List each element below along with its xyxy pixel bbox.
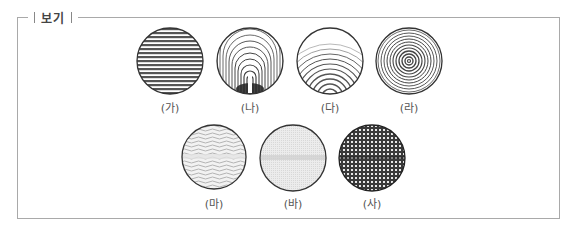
title-divider-right (71, 12, 72, 23)
figure-ga-horizontal-stripes (136, 27, 204, 95)
figure-sa-dark-grid (338, 124, 406, 192)
figure-da-bottom-arcs (296, 27, 364, 95)
figure-label-ra: (라) (384, 99, 434, 115)
figure-na-nested-arches (216, 27, 284, 95)
figure-ra-concentric-rings (375, 27, 443, 95)
figure-label-da: (다) (305, 99, 355, 115)
box-title: 보기 (28, 8, 78, 26)
figure-label-ba: (바) (268, 195, 318, 211)
box-title-text: 보기 (35, 9, 71, 26)
figure-label-ma: (마) (189, 195, 239, 211)
figure-ma-wavy-lines (181, 124, 247, 190)
figure-label-ga: (가) (145, 99, 195, 115)
figure-ba-fine-grid (259, 124, 327, 192)
figure-label-na: (나) (225, 99, 275, 115)
figure-label-sa: (사) (347, 195, 397, 211)
